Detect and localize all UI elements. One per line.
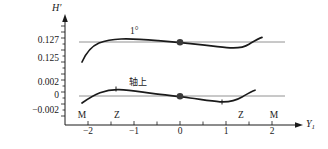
y-tick-label-0127: 0.127 xyxy=(23,35,59,45)
y-tick-label-zero: 0 xyxy=(23,90,59,100)
y-tick-label-0002: 0.002 xyxy=(23,77,59,87)
field-mark-m-right: M xyxy=(267,110,281,120)
x-axis-title-subscript: 1 xyxy=(312,123,316,131)
x-tick-label-neg1: −1 xyxy=(127,126,141,136)
curve-label-one-degree: 1° xyxy=(130,26,139,36)
curve-label-on-axis: 轴上 xyxy=(129,75,147,88)
field-mark-z-left: Z xyxy=(110,110,124,120)
figure-container: H′ 0.127 0.125 0.002 0 −0.002 −2 −1 0 1 … xyxy=(0,0,328,149)
x-tick-label-1: 1 xyxy=(220,126,232,136)
y-axis-title: H′ xyxy=(52,2,61,13)
x-tick-label-neg2: −2 xyxy=(81,126,95,136)
x-tick-label-0: 0 xyxy=(174,126,186,136)
x-tick-label-2: 2 xyxy=(266,126,278,136)
y-tick-label-neg0002: −0.002 xyxy=(18,105,59,115)
y-tick-label-0125: 0.125 xyxy=(23,53,59,63)
x-axis-title: Y1 xyxy=(306,118,315,131)
field-mark-z-right: Z xyxy=(234,110,248,120)
field-mark-m-left: M xyxy=(75,110,89,120)
